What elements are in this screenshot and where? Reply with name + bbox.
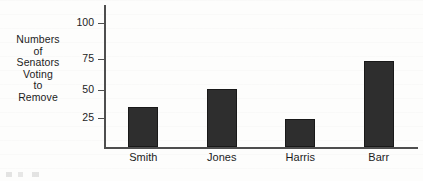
y-axis-title-line-6: Remove <box>0 92 76 104</box>
bar-jones <box>207 89 237 147</box>
y-tick-label-50: 50 <box>68 83 94 95</box>
y-tick-label-75: 75 <box>68 52 94 64</box>
bar-barr <box>364 61 394 147</box>
y-tick-mark-100 <box>98 23 104 24</box>
y-tick-mark-25 <box>98 118 104 119</box>
y-tick-label-100: 100 <box>68 16 94 28</box>
x-category-label-smith: Smith <box>103 151 183 163</box>
x-category-label-barr: Barr <box>339 151 419 163</box>
bar-harris <box>285 119 315 147</box>
y-tick-mark-50 <box>98 90 104 91</box>
x-category-label-harris: Harris <box>260 151 340 163</box>
x-category-label-jones: Jones <box>182 151 262 163</box>
x-axis-line <box>104 147 418 149</box>
y-axis-title-line-1: Numbers <box>0 34 76 46</box>
y-tick-mark-75 <box>98 59 104 60</box>
y-tick-label-25: 25 <box>68 111 94 123</box>
bar-chart-figure: Numbers of Senators Voting to Remove 100… <box>0 0 423 181</box>
page-edge-artifact <box>6 172 50 177</box>
bar-smith <box>128 107 158 147</box>
y-axis-title: Numbers of Senators Voting to Remove <box>0 34 76 104</box>
y-axis-line <box>104 5 106 148</box>
